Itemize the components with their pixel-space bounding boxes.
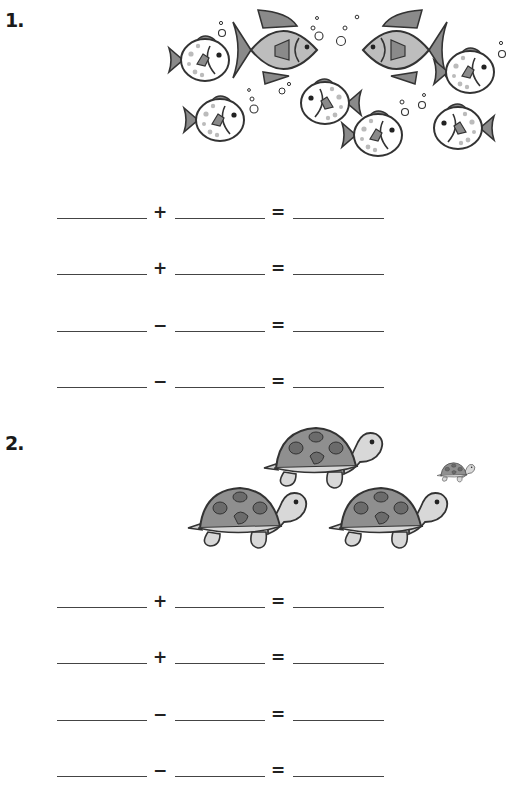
equals-sign: = [271,315,285,335]
operator: + [153,202,167,222]
answer-blank[interactable] [293,607,384,608]
equation-row: − = [57,701,385,721]
answer-blank[interactable] [57,218,147,219]
turtle-illustration [185,420,495,560]
problem-number: 2. [5,432,23,454]
answer-blank[interactable] [175,663,265,664]
answer-blank[interactable] [57,663,147,664]
equation-row: + = [57,199,385,219]
operator: + [153,258,167,278]
equation-row: + = [57,644,385,664]
equals-sign: = [271,591,285,611]
answer-blank[interactable] [293,663,384,664]
fish-illustration [160,8,520,163]
answer-blank[interactable] [175,274,265,275]
operator: − [153,315,167,335]
problem-number: 1. [5,9,23,31]
answer-blank[interactable] [293,331,384,332]
answer-blank[interactable] [293,720,384,721]
equals-sign: = [271,371,285,391]
equals-sign: = [271,760,285,780]
equation-row: + = [57,588,385,608]
equals-sign: = [271,704,285,724]
answer-blank[interactable] [57,720,147,721]
answer-blank[interactable] [57,331,147,332]
operator: − [153,704,167,724]
answer-blank[interactable] [57,776,147,777]
answer-blank[interactable] [57,387,147,388]
equation-row: − = [57,368,385,388]
answer-blank[interactable] [293,776,384,777]
operator: − [153,371,167,391]
equation-row: − = [57,757,385,777]
equals-sign: = [271,202,285,222]
answer-blank[interactable] [57,274,147,275]
answer-blank[interactable] [293,218,384,219]
operator: + [153,647,167,667]
answer-blank[interactable] [175,776,265,777]
equation-row: − = [57,312,385,332]
answer-blank[interactable] [293,387,384,388]
equals-sign: = [271,647,285,667]
operator: + [153,591,167,611]
equation-row: + = [57,255,385,275]
operator: − [153,760,167,780]
answer-blank[interactable] [175,218,265,219]
answer-blank[interactable] [57,607,147,608]
answer-blank[interactable] [175,720,265,721]
answer-blank[interactable] [175,331,265,332]
equals-sign: = [271,258,285,278]
answer-blank[interactable] [175,607,265,608]
answer-blank[interactable] [175,387,265,388]
answer-blank[interactable] [293,274,384,275]
